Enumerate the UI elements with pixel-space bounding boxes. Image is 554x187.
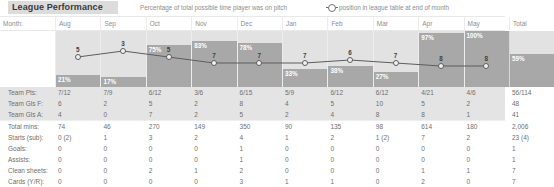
- month-header-nov: Nov: [191, 17, 236, 30]
- table-cell: 0: [464, 154, 509, 165]
- stats-table: Team Pts:7/127/96/123/66/155/96/126/124/…: [0, 87, 505, 187]
- table-cell: 23 (4): [509, 132, 554, 143]
- table-cell: 180: [464, 121, 509, 132]
- table-cell: 1: [237, 143, 282, 154]
- table-cell: 0: [191, 143, 236, 154]
- league-position-marker-icon: [438, 63, 444, 69]
- table-cell: 1: [464, 165, 509, 176]
- table-cell: 0: [146, 154, 191, 165]
- league-position-value: 5: [72, 46, 84, 54]
- league-position-value: 7: [208, 52, 220, 60]
- table-row: Cards (Y/R):00003110207: [0, 176, 505, 187]
- table-cell: 7/12: [55, 87, 100, 98]
- table-cell: 4/6: [464, 87, 509, 98]
- table-cell: 0: [373, 154, 418, 165]
- table-cell: 0: [55, 165, 100, 176]
- league-position-value: 3: [117, 40, 129, 48]
- table-cell: 0: [100, 143, 145, 154]
- table-cell: 2: [237, 165, 282, 176]
- panel-header: League Performance Percentage of total p…: [0, 0, 505, 16]
- league-position-value: 7: [390, 52, 402, 60]
- table-cell: 2,006: [509, 121, 554, 132]
- time-on-pitch-value: 59%: [512, 55, 525, 63]
- table-cell: 7: [418, 132, 463, 143]
- table-cell: 0: [55, 154, 100, 165]
- table-cell: 270: [146, 121, 191, 132]
- table-cell: 1: [464, 109, 509, 120]
- month-header-apr: Apr: [418, 17, 463, 30]
- table-cell: 2: [418, 176, 463, 187]
- table-cell: 7: [509, 165, 554, 176]
- table-cell: 4: [55, 109, 100, 120]
- league-position-value: 7: [253, 52, 265, 60]
- month-header-total: Total: [509, 17, 554, 30]
- table-cell: 350: [237, 121, 282, 132]
- table-cell: 3: [237, 176, 282, 187]
- table-cell: 4/21: [418, 87, 463, 98]
- table-row-label: Starts (sub):: [0, 132, 55, 143]
- table-cell: 0: [464, 143, 509, 154]
- month-header-may: May: [464, 17, 509, 30]
- table-row: Clean sheets:00212000117: [0, 165, 505, 176]
- table-row-label: Goals:: [0, 143, 55, 154]
- table-cell: 0: [100, 154, 145, 165]
- table-row: Team Gls F:6252845105248: [0, 98, 505, 109]
- league-position-value: 6: [344, 49, 356, 57]
- table-cell: 8: [237, 98, 282, 109]
- table-cell: 0 (2): [55, 132, 100, 143]
- table-row-label: Total mins:: [0, 121, 55, 132]
- table-cell: 149: [191, 121, 236, 132]
- table-cell: 0: [418, 154, 463, 165]
- table-row-label: Team Gls F:: [0, 98, 55, 109]
- league-performance-chart: 21%17%75%83%78%33%38%27%97%100%59%535777…: [0, 31, 505, 87]
- league-position-marker-icon: [393, 60, 399, 66]
- table-cell: 8: [418, 109, 463, 120]
- month-header-mar: Mar: [373, 17, 418, 30]
- table-cell: 90: [282, 121, 327, 132]
- table-cell: 46: [100, 121, 145, 132]
- table-cell: 6/12: [327, 87, 372, 98]
- table-cell: 0: [146, 143, 191, 154]
- table-cell: 0: [418, 143, 463, 154]
- month-header-row: Month:AugSepOctNovDecJanFebMarAprMayTota…: [0, 16, 505, 31]
- table-cell: 0: [327, 154, 372, 165]
- table-cell: 4: [327, 109, 372, 120]
- table-cell: 41: [509, 109, 554, 120]
- table-cell: 7: [509, 176, 554, 187]
- month-header-oct: Oct: [146, 17, 191, 30]
- table-cell: 2: [191, 98, 236, 109]
- table-cell: 6/12: [146, 87, 191, 98]
- month-header-dec: Dec: [237, 17, 282, 30]
- table-cell: 2: [191, 132, 236, 143]
- legend-position-entry: position in league table at end of month: [328, 2, 449, 13]
- table-cell: 6/12: [373, 87, 418, 98]
- table-cell: 0: [191, 154, 236, 165]
- table-row-label: Team Gls A:: [0, 109, 55, 120]
- table-cell: 2: [191, 109, 236, 120]
- league-position-marker-icon: [166, 54, 172, 60]
- table-cell: 614: [418, 121, 463, 132]
- table-cell: 5/9: [282, 87, 327, 98]
- table-row: Team Pts:7/127/96/123/66/155/96/126/124/…: [0, 87, 505, 98]
- table-cell: 0: [282, 143, 327, 154]
- table-row: Starts (sub):0 (2)1324121 (2)7223 (4): [0, 132, 505, 143]
- table-cell: 0: [100, 165, 145, 176]
- legend-bar-description: Percentage of total possible time player…: [140, 2, 287, 13]
- month-header-jan: Jan: [282, 17, 327, 30]
- table-cell: 98: [373, 121, 418, 132]
- table-cell: 4: [282, 98, 327, 109]
- table-cell: 5: [237, 109, 282, 120]
- table-cell: 0: [373, 143, 418, 154]
- table-cell: 1 (2): [373, 132, 418, 143]
- table-cell: 5: [146, 98, 191, 109]
- table-cell: 0: [146, 176, 191, 187]
- table-row: Total mins:744627014935090135986141802,0…: [0, 120, 505, 132]
- table-cell: 0: [100, 109, 145, 120]
- table-cell: 7: [146, 109, 191, 120]
- table-cell: 2: [464, 98, 509, 109]
- table-cell: 0: [282, 165, 327, 176]
- month-header-label: Month:: [0, 17, 55, 30]
- table-cell: 0: [373, 176, 418, 187]
- table-row: Goals:00001000001: [0, 143, 505, 154]
